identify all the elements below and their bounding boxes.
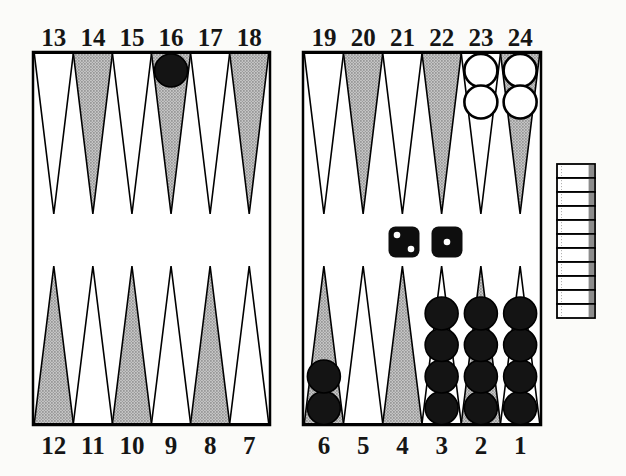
die-right-value-1[interactable] (432, 227, 463, 258)
point-7-label: 7 (243, 432, 256, 459)
point-18-label: 18 (237, 24, 262, 51)
point-15-label: 15 (119, 24, 144, 51)
point-6-checker-black-2[interactable] (307, 360, 340, 393)
point-6-checker-black-1[interactable] (307, 392, 340, 425)
point-24-checker-white-1[interactable] (504, 54, 537, 87)
point-17-label: 17 (198, 24, 223, 51)
die-pip (444, 239, 451, 246)
point-19-label: 19 (311, 24, 336, 51)
point-2-checker-black-3[interactable] (464, 329, 497, 362)
borne-off-checker-shaded-edge (589, 263, 595, 275)
point-1-checker-black-4[interactable] (504, 297, 537, 330)
die-pip (408, 246, 415, 253)
board-left-half (33, 52, 270, 425)
borne-off-checker-shaded-edge (589, 249, 595, 261)
point-20-label: 20 (351, 24, 376, 51)
point-10-label: 10 (119, 432, 144, 459)
point-5-label: 5 (357, 432, 370, 459)
point-13-label: 13 (41, 24, 66, 51)
point-3-checker-black-4[interactable] (425, 297, 458, 330)
point-3-label: 3 (435, 432, 448, 459)
point-1-label: 1 (514, 432, 527, 459)
backgammon-board-diagram: 131415161718192021222324121110987654321 (0, 0, 626, 476)
die-pip (394, 232, 401, 239)
point-8-label: 8 (204, 432, 217, 459)
bear-off-tray (557, 164, 595, 318)
point-2-checker-black-2[interactable] (464, 360, 497, 393)
point-16-checker-black-1[interactable] (155, 54, 188, 87)
point-3-checker-black-2[interactable] (425, 360, 458, 393)
point-3-checker-black-1[interactable] (425, 392, 458, 425)
borne-off-checker-shaded-edge (589, 277, 595, 289)
point-2-checker-black-4[interactable] (464, 297, 497, 330)
die-left-value-2[interactable] (389, 227, 420, 258)
point-6-label: 6 (318, 432, 331, 459)
point-1-checker-black-1[interactable] (504, 392, 537, 425)
point-23-checker-white-1[interactable] (464, 54, 497, 87)
point-4-label: 4 (396, 432, 409, 459)
point-2-checker-black-1[interactable] (464, 392, 497, 425)
point-24-checker-white-2[interactable] (504, 86, 537, 119)
point-9-label: 9 (165, 432, 178, 459)
point-16-label: 16 (159, 24, 184, 51)
point-22-label: 22 (429, 24, 454, 51)
borne-off-checker-shaded-edge (589, 291, 595, 303)
point-11-label: 11 (81, 432, 105, 459)
borne-off-checker-shaded-edge (589, 179, 595, 191)
die-body (389, 227, 420, 258)
point-24-label: 24 (508, 24, 534, 51)
borne-off-checker-shaded-edge (589, 235, 595, 247)
borne-off-checker-shaded-edge (589, 305, 595, 317)
point-14-label: 14 (80, 24, 106, 51)
borne-off-checker-shaded-edge (589, 207, 595, 219)
point-3-checker-black-3[interactable] (425, 329, 458, 362)
point-23-checker-white-2[interactable] (464, 86, 497, 119)
borne-off-checker-shaded-edge (589, 221, 595, 233)
point-1-checker-black-2[interactable] (504, 360, 537, 393)
point-12-label: 12 (41, 432, 66, 459)
borne-off-checker-shaded-edge (589, 165, 595, 177)
board-svg: 131415161718192021222324121110987654321 (0, 0, 626, 476)
borne-off-checker-shaded-edge (589, 193, 595, 205)
point-23-label: 23 (468, 24, 493, 51)
point-21-label: 21 (390, 24, 415, 51)
point-2-label: 2 (475, 432, 488, 459)
point-1-checker-black-3[interactable] (504, 329, 537, 362)
